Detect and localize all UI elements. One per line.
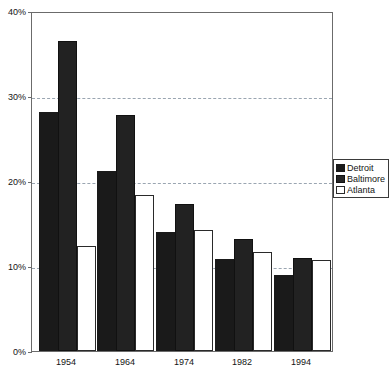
bar-group-1982	[215, 13, 271, 351]
bar-1982-atlanta	[253, 252, 272, 351]
x-axis-label-1982: 1982	[212, 357, 272, 367]
bar-1974-atlanta	[194, 230, 213, 351]
y-axis-label-10: 10%	[0, 263, 26, 272]
bar-1954-detroit	[39, 112, 58, 351]
bar-1974-detroit	[156, 232, 175, 351]
bar-1994-baltimore	[293, 258, 312, 352]
bar-1982-detroit	[215, 259, 234, 351]
bar-1994-detroit	[274, 275, 293, 352]
bar-1974-baltimore	[175, 204, 194, 351]
legend-label-baltimore: Baltimore	[347, 174, 385, 184]
x-axis-label-1974: 1974	[154, 357, 214, 367]
legend-item-detroit: Detroit	[336, 162, 385, 173]
legend-swatch-detroit-icon	[336, 164, 345, 172]
x-axis-label-1994: 1994	[271, 357, 331, 367]
bar-chart: 40% 30% 20% 10% 0%	[0, 0, 392, 379]
y-axis-tick-0	[28, 352, 32, 353]
bar-group-1964	[97, 13, 153, 351]
x-axis-label-1954: 1954	[36, 357, 96, 367]
y-axis-label-30: 30%	[0, 93, 26, 102]
legend-label-atlanta: Atlanta	[347, 185, 375, 195]
y-axis-label-20: 20%	[0, 178, 26, 187]
legend-label-detroit: Detroit	[347, 163, 374, 173]
bar-group-1974	[156, 13, 212, 351]
chart-legend: Detroit Baltimore Atlanta	[333, 159, 389, 198]
y-axis-label-0: 0%	[0, 348, 26, 357]
y-axis-label-40: 40%	[0, 8, 26, 17]
bar-group-1954	[39, 13, 95, 351]
bar-1982-baltimore	[234, 239, 253, 351]
x-axis-label-1964: 1964	[95, 357, 155, 367]
bar-1964-baltimore	[116, 115, 135, 351]
bar-1954-baltimore	[58, 41, 77, 351]
legend-item-atlanta: Atlanta	[336, 184, 385, 195]
bar-group-1994	[274, 13, 330, 351]
plot-area	[31, 12, 333, 352]
bar-1964-atlanta	[135, 195, 154, 351]
bar-1964-detroit	[97, 171, 116, 351]
bar-1954-atlanta	[77, 246, 96, 351]
bar-1994-atlanta	[312, 260, 331, 351]
legend-swatch-atlanta-icon	[336, 186, 345, 194]
legend-item-baltimore: Baltimore	[336, 173, 385, 184]
legend-swatch-baltimore-icon	[336, 175, 345, 183]
